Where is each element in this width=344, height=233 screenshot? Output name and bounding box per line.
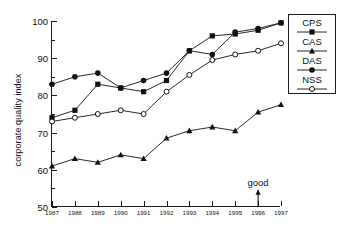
x-tick-label: 1993 xyxy=(183,209,197,216)
chart-legend: CPSCASDASNSS xyxy=(288,14,336,94)
legend-label: DAS xyxy=(302,55,322,66)
x-tick-label: 1988 xyxy=(68,209,82,216)
chart-figure: corporate quality index 5060708090100 19… xyxy=(0,0,344,233)
plot-area: 5060708090100 19871988198919901991199219… xyxy=(51,21,280,207)
y-tick-label: 90 xyxy=(37,53,48,64)
x-tick-label: 1987 xyxy=(45,209,59,216)
legend-item-cas[interactable]: CAS xyxy=(289,36,335,55)
y-tick-label: 60 xyxy=(37,164,48,175)
legend-symbol-open-circle xyxy=(295,85,329,93)
legend-label: NSS xyxy=(302,74,322,85)
legend-label: CPS xyxy=(302,17,322,28)
x-tick xyxy=(281,201,282,206)
x-tick-label: 1997 xyxy=(274,209,288,216)
legend-item-cps[interactable]: CPS xyxy=(289,17,335,36)
y-tick-label: 100 xyxy=(32,16,48,27)
x-tick-label: 1995 xyxy=(228,209,242,216)
legend-symbol-filled-circle xyxy=(295,66,329,74)
y-tick-label: 80 xyxy=(37,90,48,101)
x-tick-label: 1992 xyxy=(160,209,174,216)
x-tick-label: 1994 xyxy=(205,209,219,216)
y-tick xyxy=(52,207,57,208)
x-tick-label: 1990 xyxy=(114,209,128,216)
legend-item-das[interactable]: DAS xyxy=(289,55,335,74)
legend-label: CAS xyxy=(302,36,322,47)
annotation-arrow xyxy=(52,21,281,207)
legend-item-nss[interactable]: NSS xyxy=(289,74,335,93)
y-tick-label: 70 xyxy=(37,127,48,138)
legend-symbol-filled-triangle xyxy=(295,47,329,55)
y-axis-title: corporate quality index xyxy=(13,40,23,200)
x-tick-label: 1989 xyxy=(91,209,105,216)
x-tick-label: 1991 xyxy=(137,209,151,216)
x-tick-label: 1996 xyxy=(251,209,265,216)
legend-symbol-filled-square xyxy=(295,28,329,36)
